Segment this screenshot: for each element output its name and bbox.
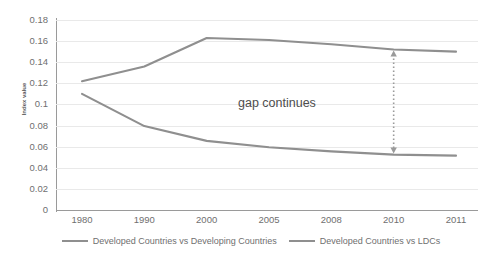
legend-label: Developed Countries vs Developing Countr…	[93, 236, 277, 246]
gap-arrow-head-up	[390, 51, 396, 57]
x-axis-tick: 2011	[426, 214, 486, 225]
x-axis-tick: 2005	[239, 214, 299, 225]
gap-continues-annotation: gap continues	[238, 96, 316, 110]
gap-arrow-head-down	[390, 148, 396, 154]
x-axis-tick: 1980	[52, 214, 112, 225]
series-line-1	[82, 38, 456, 81]
x-axis-tick: 2000	[177, 214, 237, 225]
x-axis-tick: 2008	[301, 214, 361, 225]
x-axis-tick: 1990	[114, 214, 174, 225]
legend-swatch-icon	[289, 240, 315, 242]
chart-legend: Developed Countries vs Developing Countr…	[0, 236, 502, 246]
x-axis-tick: 2010	[364, 214, 424, 225]
gap-arrow-icon	[390, 51, 396, 154]
legend-label: Developed Countries vs LDCs	[320, 236, 441, 246]
legend-item-1[interactable]: Developed Countries vs Developing Countr…	[62, 236, 277, 246]
legend-item-2[interactable]: Developed Countries vs LDCs	[289, 236, 441, 246]
legend-swatch-icon	[62, 240, 88, 242]
x-axis-tick-labels: 1980199020002005200820102011	[56, 214, 478, 232]
line-chart: 0.180.160.140.120.10.080.060.040.020 Ind…	[0, 0, 502, 264]
